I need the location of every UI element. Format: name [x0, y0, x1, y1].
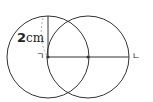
- right-center-point: [87, 56, 90, 59]
- radius-unit: cm: [26, 31, 44, 45]
- circles-figure: [0, 0, 153, 102]
- radius-label: 2cm: [17, 31, 44, 44]
- point-label-left: ㄱ: [36, 52, 44, 61]
- diagram: 2cm ㄱ ㄴ: [0, 0, 153, 102]
- radius-value: 2: [17, 30, 26, 45]
- left-center-point: [47, 56, 50, 59]
- point-label-right: ㄴ: [132, 52, 140, 61]
